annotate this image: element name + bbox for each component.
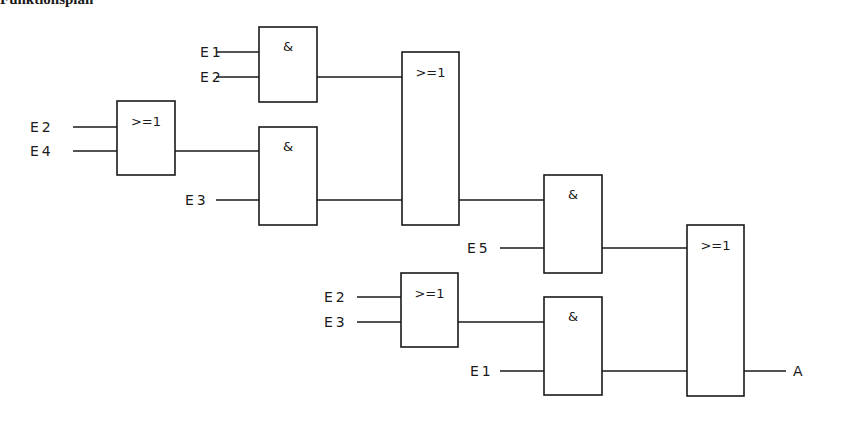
output-layer: A: [744, 363, 806, 379]
input-label: E2: [30, 119, 54, 135]
input-e4: E4: [30, 143, 117, 159]
input-label: E3: [185, 192, 209, 208]
input-label: E4: [30, 143, 54, 159]
input-e2: E2: [324, 289, 401, 305]
gate-or: >=1: [402, 52, 459, 225]
gate-or: >=1: [401, 273, 458, 347]
gate-symbol: >=1: [700, 238, 730, 253]
input-e1: E1: [470, 363, 544, 379]
input-e1: E1: [200, 44, 259, 60]
logic-function-diagram: E1E2E2E4E3E5E2E3E1 >=1&&>=1&>=1&>=1 A: [0, 0, 843, 421]
gate-or: >=1: [687, 225, 744, 396]
input-e3: E3: [185, 192, 259, 208]
gate-and: &: [544, 175, 602, 273]
input-e5: E5: [467, 240, 544, 256]
gate-or: >=1: [117, 101, 175, 175]
gate-and: &: [259, 27, 317, 102]
gate-and: &: [544, 297, 602, 395]
gate-and: &: [259, 127, 317, 225]
output-label: A: [793, 363, 806, 379]
input-e2: E2: [30, 119, 117, 135]
input-label: E1: [470, 363, 494, 379]
gate-box: [401, 273, 458, 347]
input-label: E2: [324, 289, 348, 305]
input-e3: E3: [324, 314, 401, 330]
gate-symbol: &: [568, 309, 578, 324]
gate-box: [117, 101, 175, 175]
gate-symbol: &: [568, 187, 578, 202]
gate-symbol: >=1: [414, 286, 444, 301]
gate-symbol: >=1: [131, 114, 161, 129]
input-label: E3: [324, 314, 348, 330]
gate-symbol: >=1: [415, 65, 445, 80]
gate-symbol: &: [283, 39, 293, 54]
input-e2: E2: [200, 69, 259, 85]
input-label: E5: [467, 240, 491, 256]
gate-symbol: &: [283, 139, 293, 154]
